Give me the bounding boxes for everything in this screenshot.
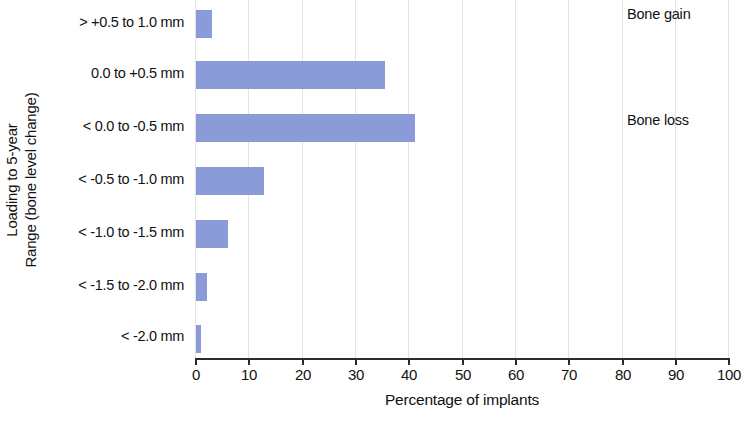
gridline — [622, 0, 623, 358]
gridline — [568, 0, 569, 358]
bar — [196, 61, 385, 89]
x-tick-label: 80 — [615, 366, 631, 383]
x-tick — [728, 358, 730, 365]
x-tick-label: 100 — [717, 366, 741, 383]
y-tick-label: < 0.0 to -0.5 mm — [83, 118, 184, 134]
gridline — [515, 0, 516, 358]
bar — [196, 273, 207, 301]
x-tick-label: 10 — [241, 366, 257, 383]
gridline — [302, 0, 303, 358]
y-tick-label: < -2.0 mm — [121, 328, 184, 344]
x-tick-label: 50 — [455, 366, 471, 383]
gridline — [728, 0, 729, 358]
y-tick-label: 0.0 to +0.5 mm — [91, 65, 184, 81]
x-tick — [675, 358, 677, 365]
bar — [196, 167, 264, 195]
annotation-bone-gain: Bone gain — [627, 6, 691, 22]
x-tick — [195, 358, 197, 365]
gridline — [462, 0, 463, 358]
gridline — [408, 0, 409, 358]
y-axis-category-labels: > +0.5 to 1.0 mm 0.0 to +0.5 mm < 0.0 to… — [40, 0, 190, 358]
gridline — [675, 0, 676, 358]
x-tick-label: 90 — [668, 366, 684, 383]
bar-chart-figure: Loading to 5-year Range (bone level chan… — [0, 0, 744, 422]
annotation-bone-loss: Bone loss — [627, 112, 689, 128]
x-tick — [408, 358, 410, 365]
x-tick-label: 60 — [508, 366, 524, 383]
y-axis-title: Loading to 5-year Range (bone level chan… — [0, 0, 42, 360]
bar — [196, 325, 201, 353]
x-tick — [355, 358, 357, 365]
x-tick — [302, 358, 304, 365]
x-tick — [515, 358, 517, 365]
y-tick-label: < -0.5 to -1.0 mm — [78, 171, 184, 187]
plot-area: Bone gain Bone loss — [195, 0, 728, 358]
x-tick — [462, 358, 464, 365]
bar — [196, 10, 212, 38]
y-tick-label: < -1.0 to -1.5 mm — [78, 224, 184, 240]
x-tick-label: 70 — [561, 366, 577, 383]
x-tick-label: 20 — [295, 366, 311, 383]
y-axis-title-line-1: Loading to 5-year — [2, 92, 21, 267]
bar — [196, 114, 415, 142]
x-axis-title: Percentage of implants — [195, 391, 729, 409]
x-tick — [622, 358, 624, 365]
gridline — [355, 0, 356, 358]
y-tick-label: < -1.5 to -2.0 mm — [78, 277, 184, 293]
x-tick — [568, 358, 570, 365]
x-tick — [248, 358, 250, 365]
y-tick-label: > +0.5 to 1.0 mm — [79, 14, 184, 30]
x-tick-label: 40 — [401, 366, 417, 383]
bar — [196, 220, 228, 248]
y-axis-title-line-2: Range (bone level change) — [21, 92, 40, 267]
x-tick-label: 30 — [348, 366, 364, 383]
x-tick-label: 0 — [192, 366, 200, 383]
